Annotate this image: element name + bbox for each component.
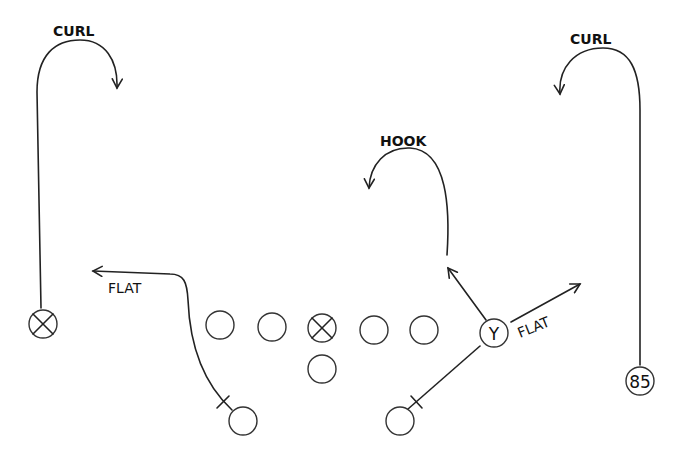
player-right-receiver: 85 [626,367,654,395]
label-curl-left: CURL [53,23,94,39]
route-left-curl [37,40,117,308]
route-right-back-block [408,346,480,409]
right-guard [360,316,388,344]
label-curl-right: CURL [570,31,611,47]
right-running-back [386,407,414,435]
player-left-receiver [29,310,57,338]
offensive-line [206,311,438,344]
label-flat-left: FLAT [108,280,142,296]
label-hook: HOOK [380,133,428,149]
left-guard [258,313,286,341]
curl-route-path [37,40,117,308]
play-diagram: CURL CURL 85 HOOK FLAT [0,0,682,462]
right-tackle [410,316,438,344]
left-tackle [206,311,234,339]
center [308,314,336,342]
player-tight-end: Y [480,319,508,347]
curl-route-path [560,48,640,365]
route-tight-end-hook [369,148,486,320]
route-right-curl [560,48,640,365]
jersey-number: 85 [629,372,651,392]
position-letter: Y [488,324,500,344]
left-running-back [229,407,257,435]
quarterback [308,355,336,383]
